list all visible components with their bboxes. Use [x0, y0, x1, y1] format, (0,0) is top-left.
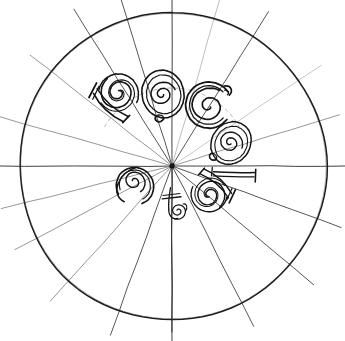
radial-glyph-diagram	[0, 0, 345, 341]
glyph-stem-foot-serif	[211, 167, 212, 175]
radial-origin-speck	[172, 164, 174, 166]
figure-canvas: Radial spiral-letter construction diagra…	[0, 0, 345, 341]
radial-spoke-spoke-vertical-down	[172, 166, 173, 341]
